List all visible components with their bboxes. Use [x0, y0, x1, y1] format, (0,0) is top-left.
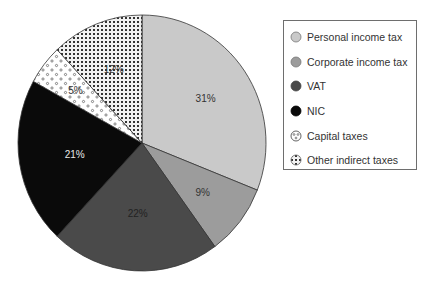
pie-slice-label: 5%	[68, 85, 83, 96]
legend-label: Other indirect taxes	[307, 154, 398, 166]
legend-item-vat: VAT	[290, 74, 416, 99]
legend-item-corporate-income-tax: Corporate income tax	[290, 50, 416, 75]
legend-swatch-icon	[290, 154, 302, 166]
legend-swatch-icon	[290, 130, 302, 142]
legend-item-other-indirect-taxes: Other indirect taxes	[290, 148, 416, 173]
legend-label: Capital taxes	[307, 130, 368, 142]
legend-item-capital-taxes: Capital taxes	[290, 123, 416, 148]
legend-item-nic: NIC	[290, 99, 416, 124]
legend-label: Personal income tax	[307, 31, 402, 43]
legend-swatch-icon	[290, 105, 302, 117]
pie-slice-label: 22%	[128, 208, 148, 219]
pie-slice-label: 9%	[196, 187, 211, 198]
legend: Personal income tax Corporate income tax…	[283, 20, 417, 170]
legend-swatch-icon	[290, 80, 302, 92]
pie-slice-label: 12%	[104, 64, 124, 75]
legend-label: Corporate income tax	[307, 56, 407, 68]
pie-slice-label: 31%	[196, 93, 216, 104]
legend-label: VAT	[307, 80, 326, 92]
pie-slices	[18, 15, 266, 271]
legend-swatch-icon	[290, 31, 302, 43]
legend-item-personal-income-tax: Personal income tax	[290, 25, 416, 50]
pie-slice-label: 21%	[65, 149, 85, 160]
legend-swatch-icon	[290, 56, 302, 68]
legend-label: NIC	[307, 105, 325, 117]
